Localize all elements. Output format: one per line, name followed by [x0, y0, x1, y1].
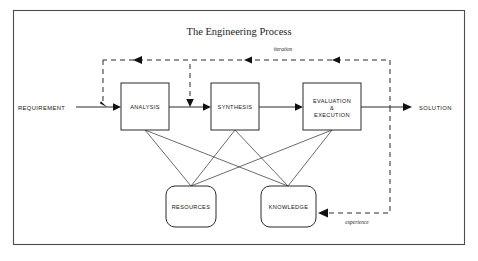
link-analysis-knowledge [145, 130, 288, 186]
resource-box-knowledge[interactable]: KNOWLEDGE [261, 186, 316, 227]
link-evaluation-resources [191, 130, 332, 186]
evaluation-box-label-line1: EVALUATION [313, 98, 351, 104]
arrowhead-iteration-left-b [244, 56, 252, 63]
arrowhead-into-synthesis [203, 103, 211, 111]
arrowhead-iteration-left-c [332, 56, 340, 63]
synthesis-box-label: SYNTHESIS [218, 104, 253, 110]
arrowhead-into-analysis [113, 103, 121, 111]
experience-label: experience [345, 219, 369, 225]
solution-label: SOLUTION [419, 105, 452, 111]
knowledge-box-label: KNOWLEDGE [269, 204, 309, 210]
arrowhead-iteration-to-analysis-path [100, 101, 107, 107]
link-analysis-resources [145, 130, 191, 186]
page-title: The Engineering Process [187, 26, 292, 37]
evaluation-box-label-line3: EXECUTION [314, 112, 350, 118]
iteration-label: iteration [274, 46, 293, 52]
process-box-evaluation-execution[interactable]: EVALUATION & EXECUTION [303, 83, 361, 130]
resources-box-label: RESOURCES [172, 204, 211, 210]
process-box-synthesis[interactable]: SYNTHESIS [211, 83, 259, 130]
requirement-label: REQUIREMENT [18, 105, 65, 111]
process-box-analysis[interactable]: ANALYSIS [121, 83, 169, 130]
arrowhead-iteration-left-a [133, 56, 142, 64]
resource-box-resources[interactable]: RESOURCES [166, 186, 216, 227]
engineering-process-diagram: The Engineering Process REQUIREMENT SOLU… [0, 0, 478, 261]
arrowhead-into-solution [403, 103, 412, 111]
analysis-box-label: ANALYSIS [130, 104, 160, 110]
evaluation-box-label-line2: & [330, 105, 334, 111]
arrowhead-into-evaluation [295, 103, 303, 111]
arrowhead-iteration-to-synthesis-path [186, 99, 194, 107]
arrowhead-experience-into-knowledge [318, 209, 328, 218]
diagram-canvas: The Engineering Process REQUIREMENT SOLU… [0, 0, 478, 261]
